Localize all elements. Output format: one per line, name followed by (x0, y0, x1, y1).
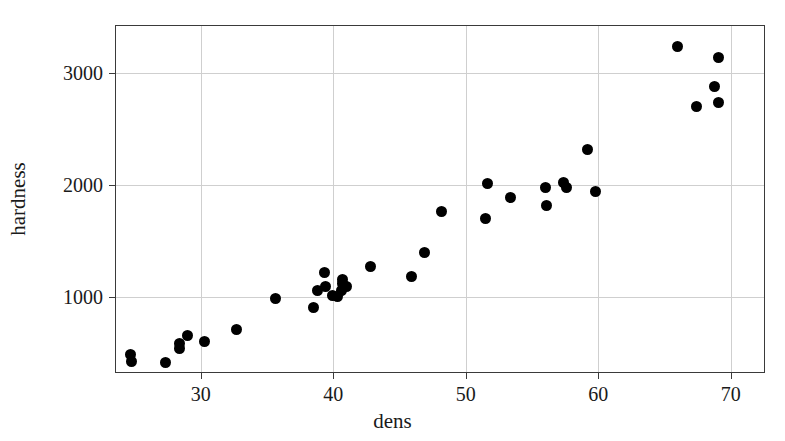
data-point (561, 182, 572, 193)
data-point (406, 271, 417, 282)
x-tick-label: 60 (588, 384, 608, 404)
data-point (160, 357, 171, 368)
y-axis-title: hardness (6, 162, 31, 235)
x-tick-mark (333, 372, 334, 379)
data-point (126, 356, 137, 367)
gridline-vertical (333, 26, 334, 372)
y-tick-mark (109, 73, 116, 74)
gridline-vertical (201, 26, 202, 372)
data-point (482, 178, 493, 189)
data-point (582, 144, 593, 155)
data-point (672, 41, 683, 52)
y-tick-mark (109, 185, 116, 186)
plot-area: 100020003000 3040506070 (115, 25, 765, 373)
gridline-horizontal (116, 73, 764, 74)
data-point (270, 293, 281, 304)
x-tick-label: 40 (323, 384, 343, 404)
data-point (713, 52, 724, 63)
data-point (341, 281, 352, 292)
gridline-vertical (598, 26, 599, 372)
data-point (541, 200, 552, 211)
data-point (419, 247, 430, 258)
y-tick-label: 2000 (63, 175, 103, 195)
data-point (231, 324, 242, 335)
data-point (308, 302, 319, 313)
y-tick-label: 1000 (63, 287, 103, 307)
x-tick-label: 50 (456, 384, 476, 404)
data-point (365, 261, 376, 272)
x-tick-mark (201, 372, 202, 379)
gridline-horizontal (116, 297, 764, 298)
scatter-plot-figure: 100020003000 3040506070 hardness dens (0, 0, 785, 441)
y-tick-mark (109, 297, 116, 298)
data-point (182, 330, 193, 341)
x-axis-title: dens (0, 409, 785, 434)
x-tick-label: 70 (721, 384, 741, 404)
data-point (540, 182, 551, 193)
x-tick-mark (731, 372, 732, 379)
x-tick-label: 30 (191, 384, 211, 404)
y-tick-label: 3000 (63, 63, 103, 83)
data-point (199, 336, 210, 347)
x-tick-mark (466, 372, 467, 379)
data-point (319, 267, 330, 278)
data-point (713, 97, 724, 108)
gridline-vertical (466, 26, 467, 372)
data-point (691, 101, 702, 112)
data-point (480, 213, 491, 224)
x-tick-mark (598, 372, 599, 379)
gridline-horizontal (116, 185, 764, 186)
data-point (709, 81, 720, 92)
data-point (505, 192, 516, 203)
data-point (590, 186, 601, 197)
data-point (436, 206, 447, 217)
gridline-vertical (731, 26, 732, 372)
